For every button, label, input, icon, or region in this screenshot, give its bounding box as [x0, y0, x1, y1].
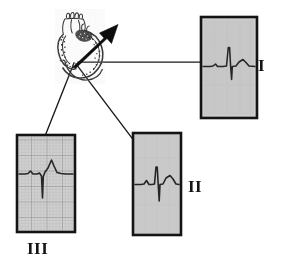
lead-label-III: III: [27, 240, 48, 257]
connector-lead-III: [45, 63, 74, 136]
connector-lead-II: [76, 64, 135, 142]
lead-III-panel: [17, 135, 75, 232]
figure-canvas: [0, 0, 282, 270]
ecg-axis-figure: I II III: [0, 0, 282, 270]
lead-label-II: II: [188, 178, 202, 195]
lead-I-panel: [201, 17, 257, 118]
lead-label-I: I: [258, 57, 265, 74]
lead-II-panel: [133, 133, 181, 235]
